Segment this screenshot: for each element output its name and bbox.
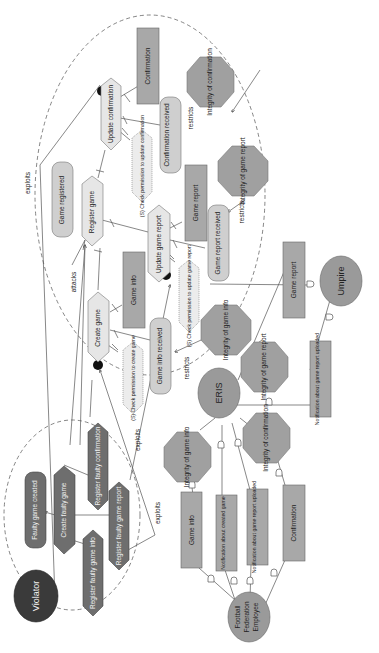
softgoal-integrity-game-info-inner[interactable]: Integrity of game info <box>201 299 251 360</box>
dependency-integrity-game-info[interactable]: Integrity of game info <box>164 426 211 487</box>
svg-text:Integrity of game info: Integrity of game info <box>222 299 230 360</box>
svg-text:Register faulty confirmation: Register faulty confirmation <box>94 426 102 505</box>
svg-text:Game report: Game report <box>290 262 298 299</box>
goal-game-report-received[interactable]: Game report received <box>208 205 229 281</box>
dependency-confirmation[interactable]: Confirmation <box>283 485 305 561</box>
permission-create-game[interactable]: (S) Check permission to create game <box>123 335 143 421</box>
resource-confirmation[interactable]: Confirmation <box>137 28 159 104</box>
svg-text:Confirmation received: Confirmation received <box>163 103 170 167</box>
actor-umpire[interactable]: Umpire <box>320 256 362 306</box>
dependency-game-report[interactable]: Game report <box>283 242 305 318</box>
svg-text:Umpire: Umpire <box>336 266 346 295</box>
svg-text:Employee: Employee <box>252 602 260 631</box>
svg-text:(S) Check permission to create: (S) Check permission to create game <box>130 335 136 421</box>
svg-text:(S) Check permission to update: (S) Check permission to update game repo… <box>186 244 192 347</box>
task-update-confirmation[interactable]: Update confirmation <box>101 78 121 150</box>
svg-text:Confirmation: Confirmation <box>290 504 297 541</box>
svg-text:Confirmation: Confirmation <box>144 47 151 84</box>
svg-text:Integrity of confirmation: Integrity of confirmation <box>262 404 270 472</box>
svg-text:Create game: Create game <box>94 309 102 347</box>
edge-label-restricts-2: restricts <box>238 200 245 224</box>
svg-text:Notification about created gam: Notification about created game <box>220 496 226 569</box>
goal-game-info-received[interactable]: Game info received <box>150 318 171 394</box>
svg-text:Game registered: Game registered <box>58 175 66 224</box>
svg-text:Faulty game created: Faulty game created <box>31 480 39 540</box>
malicious-task-register-faulty-confirmation[interactable]: Register faulty confirmation <box>88 423 108 510</box>
actor-football-federation-employee[interactable]: Football Federation Football Federation … <box>228 592 270 642</box>
svg-text:Violator: Violator <box>31 581 41 611</box>
svg-text:Game report: Game report <box>192 185 200 222</box>
svg-text:Integrity of game report: Integrity of game report <box>239 137 247 204</box>
svg-text:Game report received: Game report received <box>214 211 222 274</box>
svg-text:Game info: Game info <box>188 515 195 545</box>
svg-text:Football: Football <box>234 605 241 629</box>
goal-confirmation-received[interactable]: Confirmation received <box>160 97 181 173</box>
svg-text:Register game: Register game <box>88 190 96 233</box>
svg-text:Game info received: Game info received <box>156 327 163 384</box>
resource-game-report[interactable]: Game report <box>185 165 207 241</box>
svg-text:Update game report: Update game report <box>155 215 163 273</box>
svg-text:Integrity of confirmation: Integrity of confirmation <box>206 48 214 116</box>
svg-text:ERIS: ERIS <box>214 382 224 403</box>
svg-text:Game info: Game info <box>130 275 137 305</box>
actor-violator[interactable]: Violator <box>14 570 58 622</box>
edge-label-restricts-1: restricts <box>187 106 194 130</box>
malicious-task-register-faulty-game-report[interactable]: Register faulty game report <box>109 482 129 570</box>
task-register-game[interactable]: Register game <box>82 176 103 246</box>
dependency-notification-game-report-uploaded[interactable]: Notification about game report uploaded <box>310 333 331 425</box>
svg-text:Register faulty game info: Register faulty game info <box>89 537 97 609</box>
resource-game-info[interactable]: Game info <box>123 252 145 328</box>
dependency-game-info[interactable]: Game info <box>181 492 202 568</box>
edge-label-exploits-2: exploits <box>134 428 142 451</box>
edge-label-exploits-3: exploits <box>154 501 162 524</box>
edge-label-restricts-3: restricts <box>183 356 190 380</box>
actor-eris[interactable]: ERIS <box>198 368 240 418</box>
malicious-task-create-faulty-game[interactable]: Create faulty game <box>54 466 75 554</box>
malicious-task-register-faulty-game-info[interactable]: Register faulty game info <box>83 530 103 616</box>
dependency-notification-game-report-uploaded-2[interactable]: Notification about game report uploaded <box>247 481 268 573</box>
svg-text:Integrity of game report: Integrity of game report <box>260 333 268 400</box>
edge-label-exploits: exploits <box>24 171 32 194</box>
svg-text:Notification about game report: Notification about game report uploaded <box>251 481 257 573</box>
svg-text:Register faulty game report: Register faulty game report <box>115 487 123 566</box>
svg-text:Federation: Federation <box>243 601 250 632</box>
edge-label-attacks: attacks <box>70 271 77 292</box>
goal-game-registered[interactable]: Game registered <box>52 162 73 237</box>
task-create-game[interactable]: Create game <box>88 292 109 362</box>
softgoal-integrity-confirmation[interactable]: Integrity of confirmation <box>187 48 234 116</box>
security-requirements-diagram: Confirmation Game report Game info Confi… <box>0 0 379 653</box>
dependency-integrity-confirmation[interactable]: Integrity of confirmation <box>243 404 290 472</box>
permission-update-game-report[interactable]: (S) Check permission to update game repo… <box>179 244 199 347</box>
malicious-goal-faulty-game-created[interactable]: Faulty game created <box>25 472 46 548</box>
svg-text:Notification about game report: Notification about game report uploaded <box>314 333 320 425</box>
svg-text:(S) Check permission to update: (S) Check permission to update confirmat… <box>139 115 145 217</box>
svg-text:Update confirmation: Update confirmation <box>107 85 115 144</box>
svg-text:Create faulty game: Create faulty game <box>60 482 68 537</box>
task-update-game-report[interactable]: Update game report <box>148 205 170 282</box>
svg-text:Integrity of game info: Integrity of game info <box>183 426 191 487</box>
permission-update-confirmation[interactable]: (S) Check permission to update confirmat… <box>132 115 152 217</box>
dependency-notification-created-game[interactable]: Notification about created game <box>216 495 237 571</box>
